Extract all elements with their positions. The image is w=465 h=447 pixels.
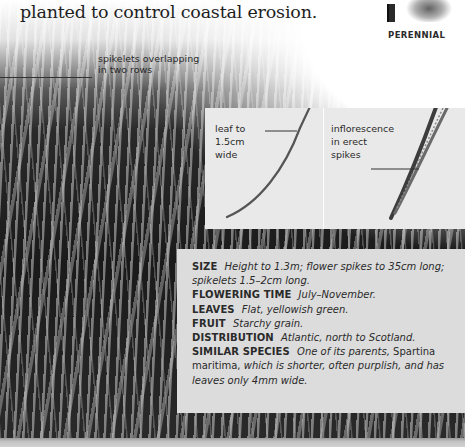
info-flowering-key: FLOWERING TIME: [192, 289, 291, 300]
info-distribution-key: DISTRIBUTION: [192, 332, 274, 343]
spikelets-annotation-line2: in two rows: [98, 64, 199, 75]
bottom-band: [0, 438, 465, 447]
inflorescence-annotation-line3: spikes: [331, 148, 394, 161]
info-similar: SIMILAR SPECIES One of its parents, Spar…: [192, 345, 457, 388]
book-icon: [387, 4, 395, 22]
info-fruit: FRUIT Starchy grain.: [192, 317, 457, 331]
perennial-badge: PERENNIAL: [378, 0, 462, 46]
info-size-key: SIZE: [192, 261, 217, 272]
leaf-annotation: leaf to 1.5cm wide: [215, 122, 245, 161]
species-info-panel: SIZE Height to 1.3m; flower spikes to 35…: [177, 249, 465, 413]
leaf-annotation-line1: leaf to: [215, 122, 245, 135]
info-distribution: DISTRIBUTION Atlantic, north to Scotland…: [192, 331, 457, 345]
info-fruit-key: FRUIT: [192, 318, 226, 329]
info-similar-value-a: One of its parents,: [297, 346, 390, 357]
illustration-inset: leaf to 1.5cm wide inflorescence in erec…: [205, 108, 465, 229]
inflorescence-annotation: inflorescence in erect spikes: [331, 122, 394, 161]
inflorescence-annotation-line2: in erect: [331, 135, 394, 148]
info-size-value: Height to 1.3m; flower spikes to 35cm lo…: [192, 261, 444, 286]
info-similar-key: SIMILAR SPECIES: [192, 346, 290, 357]
info-size: SIZE Height to 1.3m; flower spikes to 35…: [192, 260, 457, 288]
info-leaves-key: LEAVES: [192, 304, 235, 315]
info-flowering: FLOWERING TIME July–November.: [192, 288, 457, 302]
info-leaves: LEAVES Flat, yellowish green.: [192, 303, 457, 317]
info-leaves-value: Flat, yellowish green.: [242, 304, 349, 315]
info-flowering-value: July–November.: [299, 289, 376, 300]
info-fruit-value: Starchy grain.: [233, 318, 303, 329]
leaf-annotation-line3: wide: [215, 148, 245, 161]
spikelets-annotation: spikelets overlapping in two rows: [98, 53, 199, 75]
grass-tuft-icon: [406, 0, 452, 22]
leaf-annotation-line2: 1.5cm: [215, 135, 245, 148]
spikelets-leader-line: [0, 77, 92, 78]
perennial-label: PERENNIAL: [388, 30, 445, 40]
inflorescence-annotation-line1: inflorescence: [331, 122, 394, 135]
intro-text: planted to control coastal erosion.: [20, 2, 317, 22]
info-distribution-value: Atlantic, north to Scotland.: [281, 332, 415, 343]
spikelets-annotation-line1: spikelets overlapping: [98, 53, 199, 64]
